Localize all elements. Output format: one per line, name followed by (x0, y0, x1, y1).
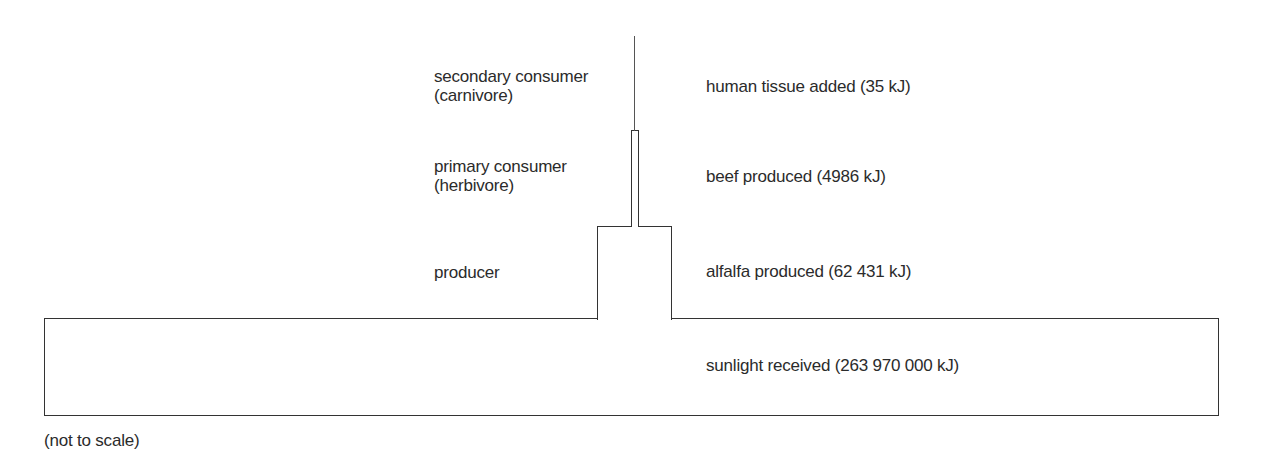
level-label-secondary-consumer: secondary consumer (carnivore) (434, 67, 588, 105)
level-description-sunlight: sunlight received (263 970 000 kJ) (706, 356, 959, 375)
producer-bar (597, 226, 672, 320)
level-subname: (herbivore) (434, 176, 567, 195)
level-description-primary-consumer: beef produced (4986 kJ) (706, 167, 886, 186)
primary-consumer-bar (631, 130, 639, 227)
energy-pyramid-diagram: secondary consumer (carnivore) primary c… (0, 0, 1266, 452)
level-label-primary-consumer: primary consumer (herbivore) (434, 157, 567, 195)
level-name: producer (434, 263, 500, 282)
level-name: secondary consumer (434, 67, 588, 86)
level-description-secondary-consumer: human tissue added (35 kJ) (706, 77, 911, 96)
sunlight-bar (44, 318, 1219, 416)
scale-note: (not to scale) (44, 431, 139, 450)
level-subname: (carnivore) (434, 86, 588, 105)
level-description-producer: alfalfa produced (62 431 kJ) (706, 262, 911, 281)
level-label-producer: producer (434, 263, 500, 282)
secondary-consumer-bar (634, 36, 635, 131)
level-name: primary consumer (434, 157, 567, 176)
